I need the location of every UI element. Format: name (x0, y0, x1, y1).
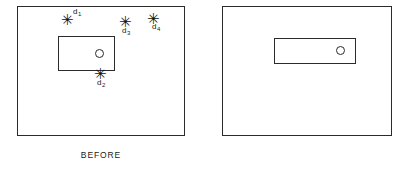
caption-before: BEFORE (17, 150, 185, 160)
panel-before: ✳ d1 ✳ d3 ✳ d4 ✳ d2 BEFORE (0, 0, 204, 170)
after-outer-frame (222, 6, 392, 136)
defect-label-d1: d1 (73, 7, 81, 16)
figure-root: ✳ d1 ✳ d3 ✳ d4 ✳ d2 BEFORE (0, 0, 407, 170)
after-circle-marker (336, 46, 345, 55)
before-outer-frame: ✳ d1 ✳ d3 ✳ d4 ✳ d2 (17, 6, 185, 136)
before-circle-marker (95, 49, 104, 58)
defect-label-d3: d3 (122, 26, 130, 35)
asterisk-icon: ✳ (61, 13, 73, 27)
defect-label-d2: d2 (97, 78, 105, 87)
panel-after: AFTER (204, 0, 407, 170)
defect-label-d4: d4 (152, 22, 160, 31)
